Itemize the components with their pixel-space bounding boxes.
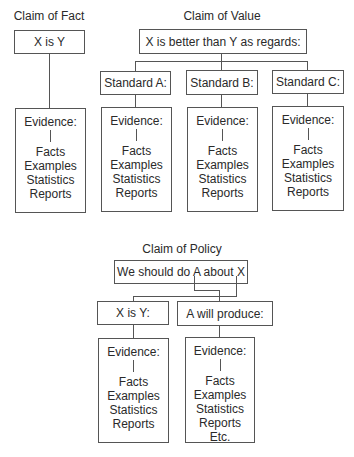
connector-line (307, 94, 308, 106)
claim-of-policy-title: Claim of Policy (142, 242, 221, 256)
connector-line (194, 276, 195, 291)
standard-b-box: Standard B: (186, 70, 258, 95)
evidence-label: Evidence: (188, 114, 257, 128)
connector-line (219, 326, 220, 337)
connector-line (133, 325, 134, 338)
evidence-item: Facts (188, 144, 257, 158)
standard-a-box: Standard A: (100, 71, 171, 95)
connector-line (50, 130, 51, 142)
connector-line (133, 360, 134, 372)
evidence-item: Etc. (186, 430, 254, 444)
connector-line (221, 95, 222, 107)
connector-line (222, 129, 223, 141)
evidence-item: Statistics (16, 173, 85, 187)
evidence-item: Statistics (99, 403, 168, 417)
connector-line (49, 54, 50, 108)
policy-claim-box: We should do A about X (114, 260, 248, 284)
evidence-item: Statistics (102, 172, 171, 186)
evidence-label: Evidence: (186, 344, 254, 358)
connector-line (219, 296, 237, 297)
connector-line (135, 61, 136, 71)
evidence-item: Reports (16, 187, 85, 201)
evidence-item: Reports (273, 185, 343, 199)
claim-of-fact-title: Claim of Fact (14, 9, 85, 23)
standard-b-evidence-box: Evidence: Facts Examples Statistics Repo… (187, 107, 258, 212)
evidence-item: Examples (273, 157, 343, 171)
connector-line (135, 95, 136, 107)
policy-x-is-y-box: X is Y: (97, 301, 169, 325)
connector-line (133, 296, 220, 297)
fact-claim-box: X is Y (14, 30, 85, 54)
evidence-item: Facts (273, 143, 343, 157)
connector-line (220, 359, 221, 371)
evidence-item: Examples (188, 158, 257, 172)
evidence-label: Evidence: (16, 115, 85, 129)
standard-c-evidence-box: Evidence: Facts Examples Statistics Repo… (272, 106, 344, 211)
evidence-item: Facts (16, 145, 85, 159)
fact-evidence-box: Evidence: Facts Examples Statistics Repo… (15, 108, 86, 213)
connector-line (308, 128, 309, 140)
evidence-label: Evidence: (273, 113, 343, 127)
claim-of-value-title: Claim of Value (183, 9, 260, 23)
connector-line (236, 276, 237, 297)
evidence-item: Statistics (273, 171, 343, 185)
evidence-item: Reports (186, 416, 254, 430)
evidence-item: Examples (102, 158, 171, 172)
value-claim-box: X is better than Y as regards: (139, 29, 307, 54)
evidence-item: Facts (186, 374, 254, 388)
evidence-label: Evidence: (99, 345, 168, 359)
evidence-item: Examples (99, 389, 168, 403)
policy-a-will-produce-evidence-box: Evidence: Facts Examples Statistics Repo… (185, 337, 255, 443)
connector-line (136, 129, 137, 141)
evidence-item: Statistics (188, 172, 257, 186)
evidence-item: Reports (99, 417, 168, 431)
standard-c-box: Standard C: (272, 70, 344, 94)
evidence-item: Examples (186, 388, 254, 402)
evidence-item: Reports (188, 186, 257, 200)
connector-line (194, 290, 219, 291)
standard-a-evidence-box: Evidence: Facts Examples Statistics Repo… (101, 107, 172, 212)
evidence-item: Reports (102, 186, 171, 200)
evidence-label: Evidence: (102, 114, 171, 128)
connector-line (221, 54, 222, 61)
policy-a-will-produce-box: A will produce: (177, 301, 273, 326)
policy-x-is-y-evidence-box: Evidence: Facts Examples Statistics Repo… (98, 338, 169, 443)
evidence-item: Facts (99, 375, 168, 389)
evidence-item: Facts (102, 144, 171, 158)
evidence-item: Examples (16, 159, 85, 173)
evidence-item: Statistics (186, 402, 254, 416)
